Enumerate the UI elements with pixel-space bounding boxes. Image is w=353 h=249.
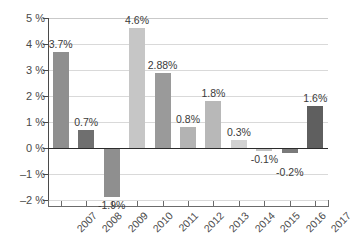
y-axis-tick-label: 3 % xyxy=(26,65,45,76)
bar xyxy=(180,127,196,148)
bar-value-label: 0.8% xyxy=(176,114,200,125)
x-axis-tick xyxy=(86,201,87,207)
x-axis-tick-label: 2017 xyxy=(329,210,353,234)
x-axis-tick xyxy=(137,201,138,207)
zero-line xyxy=(48,148,328,149)
bar xyxy=(104,148,120,197)
x-axis-right-cap xyxy=(328,200,329,207)
y-axis-tick-label: –1 % xyxy=(20,169,45,180)
x-axis-tick xyxy=(163,201,164,207)
x-axis-tick xyxy=(213,201,214,207)
x-axis-tick-label: 2011 xyxy=(176,210,200,234)
bar xyxy=(155,73,171,148)
x-axis-tick-label: 2010 xyxy=(151,210,175,234)
x-axis-left-cap xyxy=(48,200,49,207)
bar-value-label: 0.7% xyxy=(74,117,98,128)
bar xyxy=(205,101,221,148)
gridline xyxy=(48,70,328,71)
x-axis-tick xyxy=(239,201,240,207)
bar xyxy=(129,28,145,148)
bar-value-label: 4.6% xyxy=(125,15,149,26)
x-axis-tick-label: 2009 xyxy=(125,210,149,234)
x-axis-tick-label: 2014 xyxy=(253,210,277,234)
y-axis-tick-label: 4 % xyxy=(26,39,45,50)
y-axis-tick-label: –2 % xyxy=(20,195,45,206)
x-axis-tick-label: 2013 xyxy=(227,210,251,234)
bar-value-label: -1.9% xyxy=(98,200,125,211)
gridline xyxy=(48,18,328,19)
x-axis-tick-label: 2008 xyxy=(100,210,124,234)
y-axis-tick-label: 0 % xyxy=(26,143,45,154)
x-axis-tick-label: 2015 xyxy=(278,210,302,234)
bar-value-label: 1.6% xyxy=(303,93,327,104)
x-axis-tick-label: 2007 xyxy=(75,210,99,234)
gridline xyxy=(48,44,328,45)
x-axis-tick-label: 2012 xyxy=(202,210,226,234)
bar-value-label: -0.1% xyxy=(251,154,278,165)
bar-value-label: 3.7% xyxy=(49,39,73,50)
bar xyxy=(231,140,247,148)
x-axis-tick xyxy=(290,201,291,207)
x-axis-tick xyxy=(315,201,316,207)
y-axis-tick-label: 2 % xyxy=(26,91,45,102)
x-axis-tick xyxy=(61,201,62,207)
y-axis-tick-label: 5 % xyxy=(26,13,45,24)
x-axis-tick xyxy=(264,201,265,207)
bar-value-label: 0.3% xyxy=(227,127,251,138)
x-axis-tick-label: 2016 xyxy=(304,210,328,234)
bar xyxy=(78,130,94,148)
bar-value-label: 2.88% xyxy=(148,60,178,71)
gridline xyxy=(48,96,328,97)
bar-value-label: 1.8% xyxy=(201,88,225,99)
y-axis-tick-label: 1 % xyxy=(26,117,45,128)
bar xyxy=(53,52,69,148)
bar xyxy=(307,106,323,148)
bar-value-label: -0.2% xyxy=(276,167,303,178)
x-axis-tick xyxy=(188,201,189,207)
